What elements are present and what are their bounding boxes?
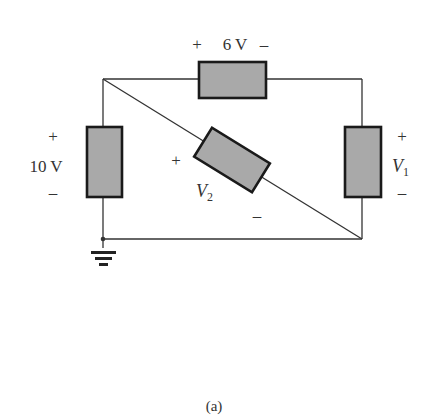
ground-icon [91,251,116,266]
v2-subscript: 2 [207,190,213,204]
left-voltage-label: 10 V [29,157,63,176]
figure-caption: (a) [206,398,223,415]
top-plus-sign: + [192,35,202,54]
diagonal-plus-sign: + [171,151,181,170]
ground-node-dot [101,237,106,242]
top-minus-sign: – [259,35,269,54]
circuit-diagram: + 6 V – + 10 V – + V1 – + V2 – (a) [0,0,426,419]
left-minus-sign: – [48,183,58,202]
top-voltage-label: 6 V [223,35,248,54]
left-plus-sign: + [48,127,58,146]
top-element [199,62,266,98]
diagonal-minus-sign: – [252,206,262,225]
v1-subscript: 1 [403,165,409,179]
right-minus-sign: – [397,183,407,202]
right-plus-sign: + [397,127,407,146]
diagonal-voltage-label: V2 [196,181,213,204]
right-voltage-label: V1 [392,156,409,179]
right-element [345,127,381,197]
left-element [87,127,122,197]
